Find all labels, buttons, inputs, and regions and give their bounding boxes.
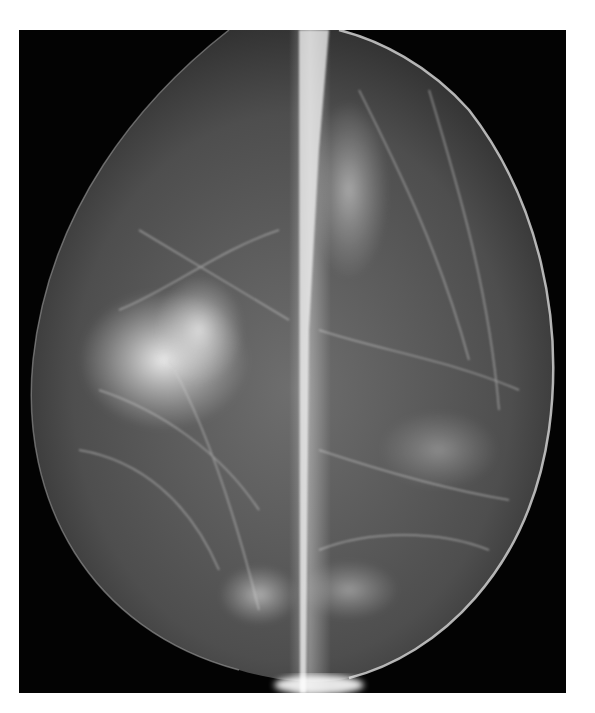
mammogram-image [19,30,566,693]
mammogram-graphic [19,30,566,693]
